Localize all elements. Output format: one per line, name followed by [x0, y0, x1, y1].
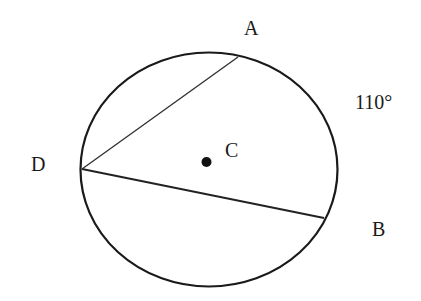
arc-measure-label: 110° [355, 91, 392, 113]
chord-da [82, 57, 238, 169]
label-a: A [244, 17, 259, 39]
center-point [202, 157, 212, 167]
label-c: C [225, 139, 238, 161]
chord-db [82, 169, 324, 218]
label-b: B [372, 218, 385, 240]
circle-diagram: A B C D 110° [0, 0, 421, 301]
label-d: D [31, 153, 45, 175]
circle [81, 53, 338, 287]
